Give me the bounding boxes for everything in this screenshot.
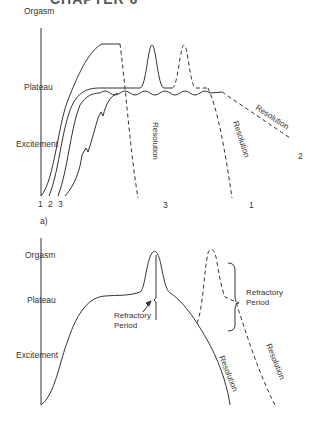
label-start-1: 1 xyxy=(38,199,43,209)
panel-a xyxy=(41,28,290,198)
label-refractory-1: Refractory xyxy=(114,311,151,320)
label-start-2: 2 xyxy=(48,199,53,209)
label-panel-a: a) xyxy=(40,216,48,226)
curve-2-wavy-plateau xyxy=(58,91,222,196)
panel-b xyxy=(41,238,275,405)
refractory-bracket-2 xyxy=(228,263,239,331)
label-plateau-a: Plateau xyxy=(24,82,53,92)
curve-1-resolution-dashed xyxy=(120,44,138,198)
curve-plateau-peak xyxy=(49,45,172,196)
label-resolution-b1: Resolution xyxy=(217,354,240,392)
label-orgasm-b: Orgasm xyxy=(25,250,55,260)
label-resolution-b2: Resolution xyxy=(264,342,287,380)
label-resolution-a1: Resolution xyxy=(151,122,160,160)
curve-2-resolution-dashed xyxy=(222,92,290,138)
curve-resolution-dashed-1 xyxy=(208,88,232,198)
label-end-2: 2 xyxy=(298,151,303,161)
label-resolution-a2: Resolution xyxy=(231,120,251,159)
label-excitement-b: Excitement xyxy=(16,350,59,360)
refractory-bracket-1 xyxy=(154,255,156,320)
label-excitement-a: Excitement xyxy=(16,139,59,149)
arrowhead-1 xyxy=(146,301,151,306)
sexual-response-diagram: Orgasm Plateau Excitement 1 2 3 a) Resol… xyxy=(0,0,309,430)
label-refractory-2: Refractory xyxy=(246,288,283,297)
label-period-2: Period xyxy=(246,298,269,307)
label-end-3: 3 xyxy=(163,200,168,210)
curve-second-peak-dashed xyxy=(172,45,208,88)
curve-1-rise xyxy=(41,44,120,196)
label-orgasm-a: Orgasm xyxy=(24,6,54,16)
label-end-1: 1 xyxy=(249,200,254,210)
label-start-3: 3 xyxy=(58,199,63,209)
curve-3-jagged-rise xyxy=(65,93,118,196)
label-period-1: Period xyxy=(114,321,137,330)
panel-b-labels: Orgasm Plateau Excitement Refractory Per… xyxy=(16,250,287,393)
label-plateau-b: Plateau xyxy=(27,295,56,305)
